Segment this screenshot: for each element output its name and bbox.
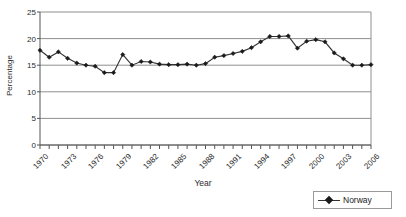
series-line-norway <box>40 36 371 73</box>
legend-marker-icon <box>318 195 340 205</box>
x-axis-title: Year <box>0 178 406 188</box>
data-point-marker <box>84 63 88 67</box>
data-point-marker <box>75 61 79 65</box>
data-point-marker <box>148 60 152 64</box>
chart-container: Percentage 0510152025 197019731976197919… <box>0 0 406 217</box>
legend-item-label: Norway <box>343 196 372 205</box>
data-point-marker <box>194 63 198 67</box>
data-point-marker <box>231 51 235 55</box>
data-point-marker <box>139 59 143 63</box>
data-point-marker <box>240 49 244 53</box>
data-point-marker <box>176 63 180 67</box>
legend: Norway <box>313 191 392 209</box>
data-point-marker <box>111 71 115 75</box>
data-point-marker <box>277 34 281 38</box>
data-point-marker <box>222 54 226 58</box>
data-point-marker <box>360 63 364 67</box>
data-point-marker <box>167 63 171 67</box>
data-point-marker <box>369 63 373 67</box>
